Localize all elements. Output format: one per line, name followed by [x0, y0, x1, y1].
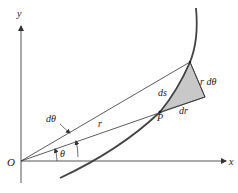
- point-upper: [189, 61, 191, 63]
- theta-angle-arc: [55, 149, 57, 161]
- dtheta-angle-arc: [76, 141, 78, 157]
- r-dtheta-label: r dθ: [200, 76, 216, 87]
- dr-label: dr: [179, 105, 188, 116]
- r-label: r: [98, 118, 102, 129]
- dtheta-pointer: [60, 124, 70, 133]
- ray-r: [21, 97, 205, 161]
- origin-label: O: [7, 156, 15, 168]
- polar-arc-length-diagram: y x O dθ r θ ds P dr r dθ: [0, 0, 238, 193]
- ds-label: ds: [158, 87, 167, 98]
- ray-theta-plus-dtheta: [21, 62, 190, 161]
- dtheta-label: dθ: [46, 113, 56, 124]
- x-axis-label: x: [228, 156, 234, 167]
- y-axis-label: y: [16, 8, 22, 19]
- p-label: P: [156, 112, 163, 123]
- theta-label: θ: [60, 148, 65, 159]
